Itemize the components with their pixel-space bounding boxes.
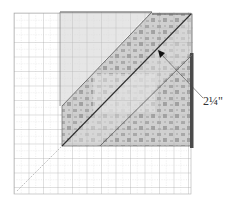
measurement-label: 2¼" bbox=[203, 94, 223, 109]
dark-fabric-edge bbox=[190, 53, 194, 148]
